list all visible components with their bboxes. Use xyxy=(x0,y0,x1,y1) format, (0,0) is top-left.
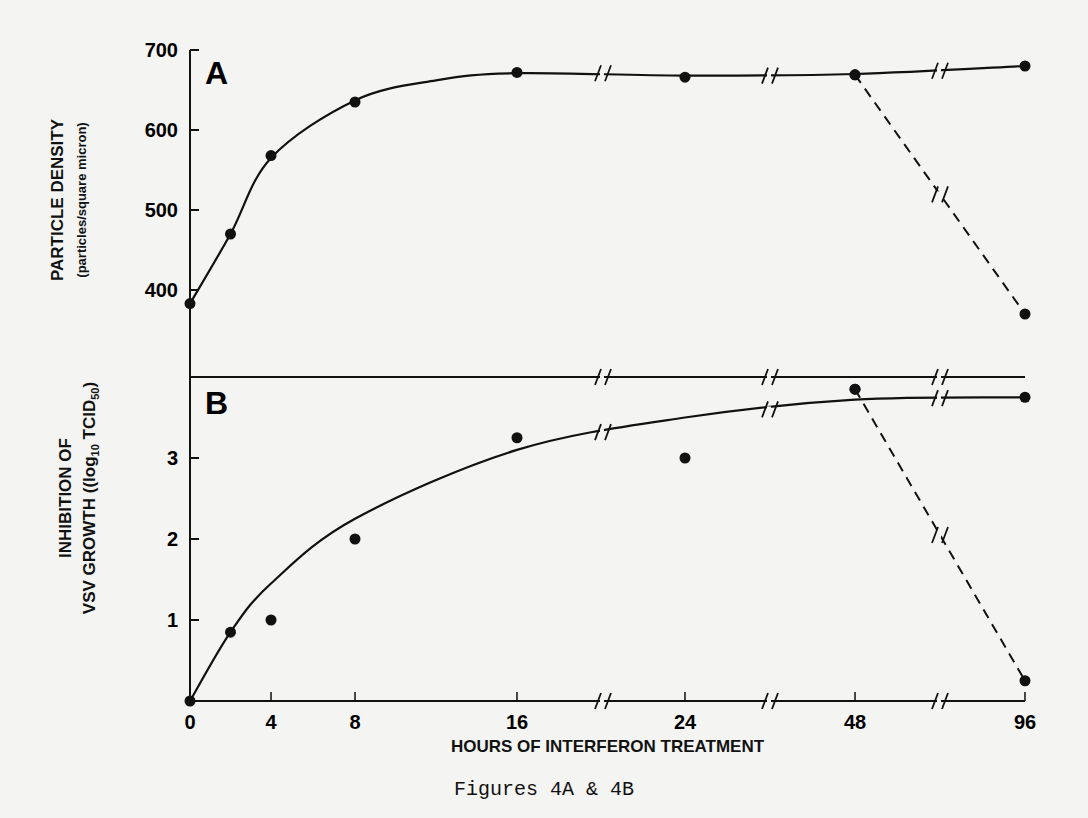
data-point xyxy=(225,627,236,638)
data-point xyxy=(225,229,236,240)
data-point xyxy=(850,384,861,395)
y-axis-label-b: INHIBITION OF VSV GROWTH ((log10 TCID50) xyxy=(56,348,101,648)
data-point xyxy=(185,696,196,707)
data-point xyxy=(185,298,196,309)
tick-labels: 40050060070012304816244896AB xyxy=(145,39,1037,733)
data-point xyxy=(1020,675,1031,686)
svg-text:8: 8 xyxy=(349,711,360,733)
data-point xyxy=(266,615,277,626)
data-point xyxy=(266,150,277,161)
data-point xyxy=(680,453,691,464)
svg-text:2: 2 xyxy=(167,528,178,550)
data-point xyxy=(1020,309,1031,320)
figure-4-chart: 40050060070012304816244896AB xyxy=(0,0,1088,818)
svg-text:400: 400 xyxy=(145,279,178,301)
data-series xyxy=(185,61,1031,710)
data-point xyxy=(1020,392,1031,403)
svg-text:4: 4 xyxy=(265,711,277,733)
svg-text:96: 96 xyxy=(1014,711,1036,733)
data-point xyxy=(1020,61,1031,72)
svg-text:48: 48 xyxy=(844,711,866,733)
svg-text:0: 0 xyxy=(184,711,195,733)
axes xyxy=(190,50,1025,701)
svg-text:500: 500 xyxy=(145,199,178,221)
data-point xyxy=(512,67,523,78)
svg-text:1: 1 xyxy=(167,609,178,631)
y-axis-label-a: PARTICLE DENSITY (particles/square micro… xyxy=(48,70,89,330)
svg-text:600: 600 xyxy=(145,119,178,141)
data-point xyxy=(512,432,523,443)
svg-text:A: A xyxy=(205,55,228,91)
svg-text:24: 24 xyxy=(674,711,697,733)
x-axis-label: HOURS OF INTERFERON TREATMENT xyxy=(190,737,1025,757)
svg-text:B: B xyxy=(205,385,228,421)
data-point xyxy=(350,534,361,545)
svg-text:3: 3 xyxy=(167,447,178,469)
data-point xyxy=(350,97,361,108)
svg-text:700: 700 xyxy=(145,39,178,61)
svg-text:16: 16 xyxy=(506,711,528,733)
figure-caption: Figures 4A & 4B xyxy=(0,778,1088,801)
data-point xyxy=(680,72,691,83)
data-point xyxy=(850,69,861,80)
